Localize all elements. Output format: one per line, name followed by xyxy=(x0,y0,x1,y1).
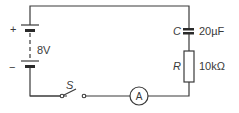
capacitor-symbol-label: C xyxy=(173,25,181,37)
capacitor-value-label: 20µF xyxy=(199,25,225,37)
ammeter-label: A xyxy=(136,91,143,102)
battery-cell-top xyxy=(21,25,39,32)
wires xyxy=(30,6,189,96)
top-wire xyxy=(30,6,189,29)
battery-cell-bottom xyxy=(21,61,39,68)
left-wire-lower xyxy=(30,67,60,96)
switch-label: S xyxy=(66,79,74,91)
resistor-symbol xyxy=(184,51,194,82)
right-bottom-wire xyxy=(148,82,189,96)
capacitor-symbol xyxy=(183,28,194,35)
battery-minus-label: − xyxy=(9,61,15,73)
circuit-diagram: + − 8V C 20µF R 10kΩ S A xyxy=(0,0,239,113)
resistor-value-label: 10kΩ xyxy=(199,60,225,72)
battery-plus-label: + xyxy=(10,23,16,35)
battery-voltage-label: 8V xyxy=(37,44,51,56)
resistor-symbol-label: R xyxy=(173,60,181,72)
